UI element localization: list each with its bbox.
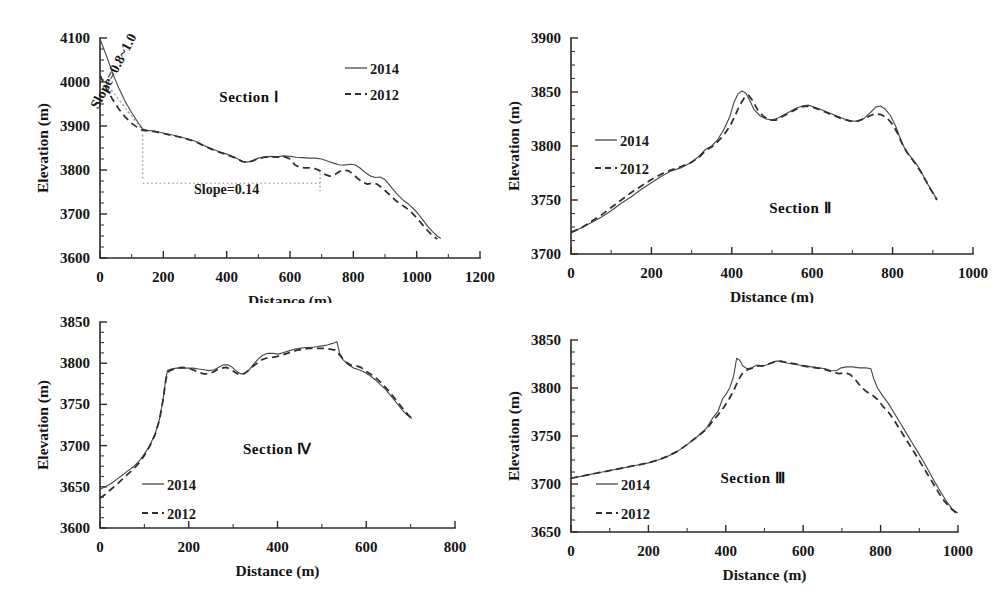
axis-spine [571,340,958,532]
x-axis-title: Distance (m) [236,562,320,580]
elevation-profile-figure: 3600370038003900400041000200400600800100… [0,0,1006,607]
y-axis-title: Elevation (m) [505,391,523,481]
legend-label-2012: 2012 [620,161,649,177]
x-tick-label: 200 [637,543,660,559]
y-axis-title: Elevation (m) [505,101,523,191]
y-axis-title: Elevation (m) [34,380,52,470]
y-tick-label: 3700 [531,476,561,492]
x-tick-label: 600 [279,269,302,285]
y-axis-title: Elevation (m) [34,103,52,193]
chart-panel-section-3: 3650370037503800385002004006008001000Dis… [503,304,1006,607]
legend-label-2014: 2014 [621,477,650,493]
x-tick-label: 200 [152,269,175,285]
legend-label-2014: 2014 [370,61,399,77]
y-tick-label: 3700 [531,246,561,262]
y-tick-label: 3850 [60,314,90,330]
chart-panel-section-4: 3600365037003750380038500200400600800Dis… [0,304,503,607]
x-tick-label: 400 [721,265,744,281]
x-tick-label: 0 [567,543,575,559]
section-title: Section Ⅱ [769,200,831,216]
legend-label-2012: 2012 [621,506,650,522]
x-tick-label: 0 [96,539,104,555]
y-tick-label: 3750 [531,192,561,208]
x-tick-label: 600 [355,539,378,555]
y-tick-label: 3700 [60,438,90,454]
y-tick-label: 3650 [60,479,90,495]
y-tick-label: 3750 [531,428,561,444]
x-tick-label: 400 [215,269,238,285]
chart-panel-section-1: 3600370038003900400041000200400600800100… [0,0,503,303]
x-tick-label: 1000 [943,543,973,559]
y-tick-label: 3800 [531,138,561,154]
legend-label-2014: 2014 [167,477,196,493]
y-tick-label: 3850 [531,332,561,348]
legend-label-2012: 2012 [370,87,399,103]
legend-label-2012: 2012 [167,506,196,522]
x-tick-label: 200 [640,265,663,281]
y-tick-label: 3900 [60,118,90,134]
y-tick-label: 3900 [531,30,561,46]
series-line-2012 [100,348,412,498]
section-title: Section Ⅲ [720,470,785,486]
axis-spine [100,322,455,528]
section-title: Section Ⅰ [219,89,278,105]
legend-label-2014: 2014 [620,133,649,149]
x-tick-label: 0 [96,269,104,285]
x-axis-title: Distance (m) [248,292,332,303]
x-tick-label: 200 [178,539,201,555]
x-tick-label: 600 [801,265,824,281]
chart-svg: 3700375038003850390002004006008001000Dis… [503,0,1006,303]
x-tick-label: 400 [266,539,289,555]
x-tick-label: 1000 [958,265,988,281]
x-axis-title: Distance (m) [730,288,814,303]
x-axis-title: Distance (m) [723,566,807,584]
chart-svg: 3600370038003900400041000200400600800100… [0,0,503,303]
slope-annotation: Slope=0.8~1.0 [87,31,139,111]
y-tick-label: 3700 [60,206,90,222]
chart-svg: 3650370037503800385002004006008001000Dis… [503,304,1006,607]
section-title: Section Ⅳ [243,441,312,457]
y-tick-label: 3800 [531,380,561,396]
slope-annotation: Slope=0.14 [194,182,259,197]
x-tick-label: 800 [342,269,365,285]
x-tick-label: 1200 [465,269,495,285]
y-tick-label: 3800 [60,162,90,178]
y-tick-label: 3750 [60,396,90,412]
y-tick-label: 4000 [60,74,90,90]
y-tick-label: 4100 [60,30,90,46]
x-tick-label: 400 [715,543,738,559]
y-tick-label: 3850 [531,84,561,100]
x-tick-label: 800 [444,539,467,555]
chart-svg: 3600365037003750380038500200400600800Dis… [0,304,503,607]
y-tick-label: 3600 [60,520,90,536]
x-tick-label: 800 [869,543,892,559]
y-tick-label: 3800 [60,355,90,371]
chart-panel-section-2: 3700375038003850390002004006008001000Dis… [503,0,1006,303]
x-tick-label: 800 [881,265,904,281]
x-tick-label: 0 [567,265,575,281]
x-tick-label: 600 [792,543,815,559]
y-tick-label: 3650 [531,524,561,540]
y-tick-label: 3600 [60,250,90,266]
x-tick-label: 1000 [402,269,432,285]
